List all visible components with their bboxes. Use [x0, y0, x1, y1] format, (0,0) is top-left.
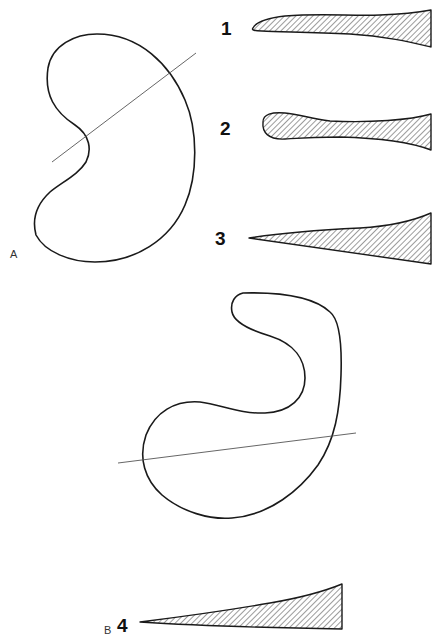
profile-label-4: 4: [117, 615, 128, 636]
panel-label-a: A: [10, 248, 18, 260]
profile-shape-4: [140, 584, 342, 629]
profile-label-2: 2: [220, 118, 231, 139]
profile-label-1: 1: [221, 18, 232, 39]
profile-shape-1: [252, 10, 431, 47]
profile-label-3: 3: [215, 228, 226, 249]
diagram-canvas: A 1 2 3 B 4: [0, 0, 444, 640]
section-line-b: [118, 433, 356, 463]
panel-label-b: B: [104, 624, 111, 636]
section-line-a: [52, 53, 196, 162]
profile-shape-2: [263, 113, 431, 150]
kidney-outline-a: [35, 34, 195, 262]
kidney-outline-b: [143, 293, 342, 518]
profile-shape-3: [249, 213, 431, 264]
